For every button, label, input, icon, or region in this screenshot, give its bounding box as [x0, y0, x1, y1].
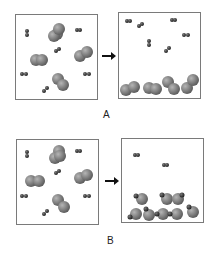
panel-a-after-molecules [120, 18, 199, 96]
panel-b-before-molecules [20, 145, 93, 216]
panel-a-before-molecules [20, 23, 93, 93]
panel-b-after-molecules [128, 153, 200, 221]
molecules-layer [0, 0, 212, 254]
